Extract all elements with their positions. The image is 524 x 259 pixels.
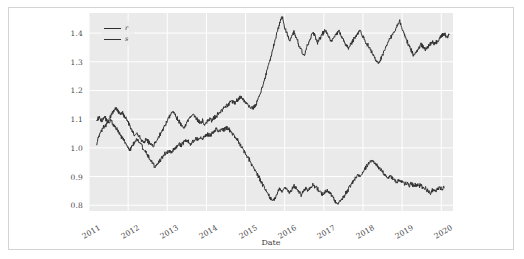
y-tick-label: 0.8	[70, 201, 83, 210]
legend-label-r: r	[125, 25, 128, 32]
y-axis-tick-labels: 0.80.91.01.11.21.31.4	[9, 13, 83, 211]
y-tick-label: 1.1	[70, 115, 83, 124]
legend-label-s: s	[125, 36, 128, 43]
y-tick-label: 1.0	[70, 143, 83, 152]
series-line-r	[97, 17, 449, 147]
y-tick-label: 1.4	[70, 29, 83, 38]
figure-canvas: 0.80.91.01.11.21.31.4 r s 20112012201320…	[8, 7, 514, 250]
chart-lines	[89, 13, 453, 211]
legend-line-swatch-r	[104, 28, 121, 29]
x-axis-label: Date	[89, 238, 453, 247]
legend-item-r[interactable]: r	[104, 24, 128, 32]
y-tick-label: 1.2	[70, 86, 83, 95]
legend-item-s[interactable]: s	[104, 35, 128, 43]
y-tick-label: 0.9	[70, 172, 83, 181]
series-line-s	[97, 116, 444, 204]
chart-legend: r s	[101, 21, 134, 46]
legend-line-swatch-s	[104, 39, 121, 40]
plot-area-wrapper: r s	[89, 13, 453, 211]
y-tick-label: 1.3	[70, 57, 83, 66]
